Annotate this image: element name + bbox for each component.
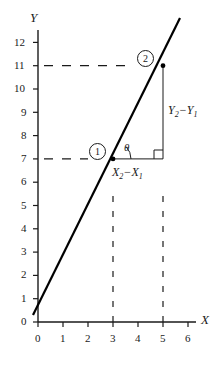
y-tick-label-7: 7 — [21, 152, 27, 164]
run-minus-x: −X — [123, 165, 138, 179]
rise-minus-y: −Y — [179, 103, 194, 117]
y-tick-label-0: 0 — [21, 315, 27, 327]
y-tick-label-9: 9 — [21, 106, 27, 118]
y-tick-label-11: 11 — [14, 59, 25, 71]
run-sub-1: 1 — [139, 172, 143, 181]
y-axis-label: Y — [30, 10, 37, 26]
x-tick-label-5: 5 — [160, 332, 166, 344]
theta-label: θ — [124, 141, 129, 153]
x-tick-label-4: 4 — [135, 332, 141, 344]
y-tick-label-12: 12 — [14, 36, 25, 48]
point-label-1: 1 — [89, 143, 106, 160]
point-label-2: 2 — [137, 50, 154, 67]
y-tick-label-2: 2 — [21, 268, 27, 280]
right-angle-marker — [154, 150, 163, 159]
y-tick-label-4: 4 — [21, 222, 27, 234]
y-tick-label-8: 8 — [21, 129, 27, 141]
x-tick-label-6: 6 — [185, 332, 191, 344]
x-tick-label-3: 3 — [110, 332, 116, 344]
x-axis-ticks — [38, 322, 188, 327]
rise-y-prefix: Y — [168, 103, 175, 117]
y-tick-label-3: 3 — [21, 245, 27, 257]
x-axis-label: X — [201, 312, 209, 328]
data-line — [33, 18, 180, 315]
rise-sub-1: 1 — [193, 110, 197, 119]
x-tick-label-0: 0 — [35, 332, 41, 344]
data-point-2-marker — [161, 63, 166, 68]
slope-diagram-figure: 12 11 10 9 8 7 6 5 4 3 2 1 0 0 1 2 3 4 5… — [0, 0, 220, 365]
y-tick-label-6: 6 — [21, 175, 27, 187]
y-tick-label-10: 10 — [14, 82, 25, 94]
x-tick-label-1: 1 — [60, 332, 66, 344]
plot-canvas — [0, 0, 220, 365]
y-axis-ticks — [33, 42, 38, 322]
data-point-1-marker — [111, 157, 116, 162]
x-tick-label-2: 2 — [85, 332, 91, 344]
rise-label: Y2−Y1 — [168, 103, 197, 119]
run-label: X2−X1 — [112, 165, 143, 181]
y-tick-label-5: 5 — [21, 199, 27, 211]
y-tick-label-1: 1 — [21, 292, 27, 304]
